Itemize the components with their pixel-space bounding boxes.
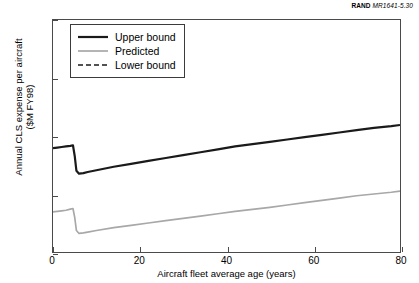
- legend-item: Lower bound: [77, 58, 176, 72]
- x-tick-mark: [315, 247, 316, 252]
- legend-label: Predicted: [115, 45, 159, 57]
- x-tick-label: 20: [119, 256, 159, 266]
- x-axis-label: Aircraft fleet average age (years): [52, 268, 401, 279]
- chart-legend: Upper boundPredictedLower bound: [70, 24, 185, 78]
- source-identifier: MR1641-5.30: [373, 2, 413, 9]
- x-tick-mark: [53, 247, 54, 252]
- legend-swatch-icon: [77, 45, 109, 57]
- legend-item: Predicted: [77, 44, 176, 58]
- legend-swatch-icon: [77, 59, 109, 71]
- x-tick-label: 60: [294, 256, 334, 266]
- x-tick-label: 40: [207, 256, 247, 266]
- source-credit: RAND MR1641-5.30: [351, 3, 413, 10]
- legend-swatch-icon: [77, 31, 109, 43]
- y-tick-mark: [53, 20, 58, 21]
- y-tick-mark: [53, 79, 58, 80]
- legend-item: Upper bound: [77, 30, 176, 44]
- legend-label: Lower bound: [115, 59, 176, 71]
- y-tick-mark: [53, 254, 58, 255]
- y-axis-label: Annual CLS expense per aircraft ($M FY98…: [13, 7, 35, 207]
- series-line: [53, 125, 400, 174]
- x-tick-mark: [402, 247, 403, 252]
- x-tick-label: 80: [381, 256, 419, 266]
- y-tick-mark: [53, 196, 58, 197]
- series-line: [53, 191, 400, 233]
- x-tick-mark: [228, 247, 229, 252]
- x-tick-label: 0: [32, 256, 72, 266]
- chart-figure: RAND MR1641-5.30 Annual CLS expense per …: [0, 0, 419, 283]
- x-tick-mark: [140, 247, 141, 252]
- legend-label: Upper bound: [115, 31, 176, 43]
- source-organization: RAND: [351, 2, 370, 9]
- y-tick-mark: [53, 137, 58, 138]
